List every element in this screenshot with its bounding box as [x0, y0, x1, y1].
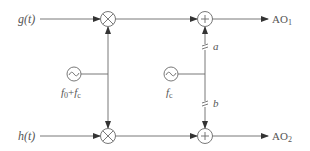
switch-label-a: a	[213, 40, 219, 52]
oscillator-2: fc	[164, 67, 178, 100]
block-diagram: g(t) h(t) a b	[0, 0, 310, 151]
input-label-h: h(t)	[18, 129, 35, 143]
multiplier-top	[101, 12, 116, 27]
oscillator-2-label: fc	[166, 86, 173, 100]
adder-top	[198, 12, 213, 27]
output-label-ao1: AO1	[272, 13, 292, 27]
oscillator-1-label: f0+fc	[61, 86, 81, 100]
adder-bottom	[198, 129, 213, 144]
input-label-g: g(t)	[18, 12, 35, 26]
switch-label-b: b	[213, 97, 219, 109]
switch-b: b	[201, 97, 219, 109]
oscillator-1: f0+fc	[61, 67, 81, 100]
multiplier-bottom	[101, 129, 116, 144]
switch-a: a	[201, 40, 219, 52]
output-label-ao2: AO2	[272, 130, 292, 144]
